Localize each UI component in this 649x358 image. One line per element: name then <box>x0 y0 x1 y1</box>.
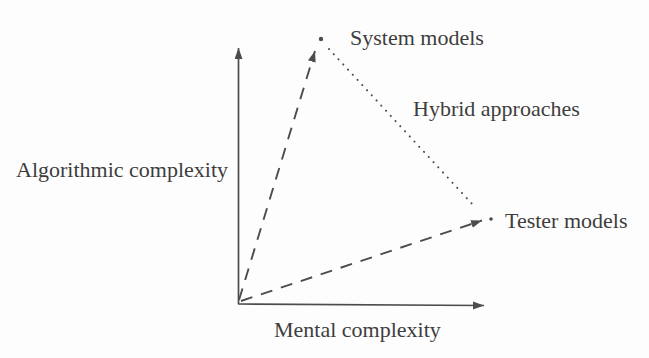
x-axis-label: Mental complexity <box>274 317 441 342</box>
x-axis <box>238 304 484 306</box>
tester-models-point <box>489 217 493 221</box>
tester-models-vector <box>241 221 482 302</box>
system-models-label: System models <box>350 25 484 50</box>
hybrid-approaches-label: Hybrid approaches <box>413 96 580 121</box>
diagram-svg: System models Hybrid approaches Tester m… <box>0 0 649 358</box>
hybrid-connector <box>329 49 474 206</box>
tester-models-label: Tester models <box>505 208 627 233</box>
system-models-vector <box>239 51 315 300</box>
complexity-diagram: System models Hybrid approaches Tester m… <box>0 0 649 358</box>
y-axis-label: Algorithmic complexity <box>16 157 228 182</box>
system-models-point <box>319 37 323 41</box>
